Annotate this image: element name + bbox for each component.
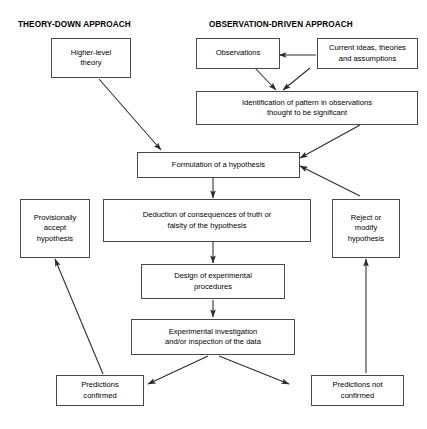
edge-current-ideas-to-identification [283, 68, 310, 90]
node-deduction-of-consequences[interactable]: Deduction of consequences of truth orfal… [103, 199, 311, 242]
node-label: Identification of pattern in observation… [199, 98, 415, 119]
node-label: Higher-leveltheory [54, 48, 128, 69]
node-formulation-of-hypothesis[interactable]: Formulation of a hypothesis [137, 152, 300, 178]
node-label: Provisionallyaccepthypothesis [23, 213, 87, 245]
column-title-observation-driven: OBSERVATION-DRIVEN APPROACH [209, 20, 353, 29]
node-label: Predictions notconfirmed [314, 380, 401, 401]
node-higher-level-theory[interactable]: Higher-leveltheory [51, 38, 131, 78]
column-title-theory-down: THEORY-DOWN APPROACH [18, 20, 131, 29]
node-label: Design of experimentalprocedures [144, 271, 282, 292]
edge-theory-to-formulation [99, 79, 161, 150]
node-provisionally-accept-hypothesis[interactable]: Provisionallyaccepthypothesis [20, 199, 90, 258]
node-identification-of-pattern[interactable]: Identification of pattern in observation… [196, 91, 418, 125]
node-reject-or-modify-hypothesis[interactable]: Reject ormodifyhypothesis [332, 199, 400, 258]
node-label: Current ideas, theoriesand assumptions [320, 43, 415, 64]
diagram-canvas: THEORY-DOWN APPROACH OBSERVATION-DRIVEN … [0, 0, 427, 429]
node-predictions-confirmed[interactable]: Predictionsconfirmed [56, 375, 144, 406]
node-predictions-not-confirmed[interactable]: Predictions notconfirmed [311, 375, 404, 406]
node-label: Deduction of consequences of truth orfal… [106, 210, 308, 231]
node-observations[interactable]: Observations [196, 38, 280, 69]
node-experimental-investigation[interactable]: Experimental investigationand/or inspect… [131, 319, 295, 355]
edge-reject-to-formulation [300, 166, 360, 196]
edge-investigation-to-predictions-confirmed [148, 356, 208, 384]
edge-predictions-confirmed-to-accept [55, 259, 103, 374]
node-label: Reject ormodifyhypothesis [335, 213, 397, 245]
edge-observations-to-identification [255, 68, 276, 90]
node-label: Predictionsconfirmed [59, 380, 141, 401]
node-label: Observations [199, 48, 277, 59]
edge-investigation-to-predictions-not-confirmed [219, 356, 289, 384]
edge-identification-to-formulation [300, 125, 360, 158]
node-design-of-experimental-procedures[interactable]: Design of experimentalprocedures [141, 264, 285, 299]
node-current-ideas-theories-assumptions[interactable]: Current ideas, theoriesand assumptions [317, 38, 418, 69]
node-label: Formulation of a hypothesis [140, 160, 297, 171]
node-label: Experimental investigationand/or inspect… [134, 327, 292, 348]
